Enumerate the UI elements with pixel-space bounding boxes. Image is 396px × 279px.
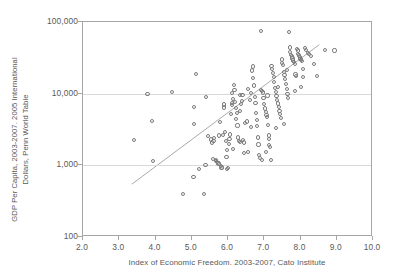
x-tick-label: 7.0 [257, 242, 269, 252]
data-point [256, 142, 260, 146]
plot-area [82, 21, 372, 236]
x-tick-mark [155, 236, 156, 240]
data-point [223, 130, 227, 134]
data-point [218, 120, 222, 124]
scatter-chart: GDP Per Capita, 2003-2007. 2005 Internat… [0, 0, 396, 279]
data-point [260, 158, 264, 162]
gridline [83, 94, 371, 95]
data-point [197, 167, 201, 171]
data-point [132, 138, 136, 142]
x-tick-label: 5.0 [185, 242, 197, 252]
y-tick-mark [78, 93, 82, 94]
data-point [272, 75, 276, 79]
x-axis-title: Index of Economic Freedom. 2003-2007, Ca… [82, 258, 372, 267]
data-point [253, 95, 257, 99]
x-tick-label: 9.0 [330, 242, 342, 252]
data-point [150, 119, 154, 123]
data-point [231, 147, 235, 151]
y-tick-label: 100 [40, 231, 78, 241]
data-point [204, 95, 208, 99]
data-point [234, 117, 238, 121]
x-tick-label: 2.0 [76, 242, 88, 252]
y-tick-label: 100,000 [40, 16, 78, 26]
x-tick-mark [372, 236, 373, 240]
data-point [332, 48, 336, 52]
data-point [285, 68, 289, 72]
x-tick-mark [118, 236, 119, 240]
data-point [250, 68, 254, 72]
x-tick-mark [227, 236, 228, 240]
x-tick-mark [336, 236, 337, 240]
data-point [266, 123, 270, 127]
y-tick-mark [78, 21, 82, 22]
data-point [269, 158, 273, 162]
data-point [264, 150, 268, 154]
y-axis-title: GDP Per Capita, 2003-2007. 2005 Internat… [0, 0, 40, 279]
data-point [265, 93, 269, 97]
data-point [253, 101, 257, 105]
data-point [293, 89, 297, 93]
data-point [181, 192, 185, 196]
data-point [151, 159, 155, 163]
y-axis-tick-labels: 1001,00010,000100,000 [40, 0, 78, 279]
data-point [227, 137, 231, 141]
data-point [276, 85, 280, 89]
data-point [252, 83, 256, 87]
data-point [256, 135, 260, 139]
data-point [293, 62, 297, 66]
data-point [224, 155, 228, 159]
y-axis-title-line2: Dollars, Penn World Table [20, 57, 31, 221]
data-point [228, 132, 232, 136]
x-tick-label: 4.0 [149, 242, 161, 252]
x-tick-mark [191, 236, 192, 240]
data-point [251, 64, 255, 68]
data-point [301, 67, 305, 71]
data-point [227, 142, 231, 146]
data-point [192, 122, 196, 126]
data-point [238, 93, 242, 97]
x-tick-label: 8.0 [294, 242, 306, 252]
y-tick-label: 10,000 [40, 88, 78, 98]
x-tick-label: 10.0 [364, 242, 381, 252]
data-point [202, 192, 206, 196]
data-point [287, 30, 291, 34]
y-tick-mark [78, 164, 82, 165]
x-tick-label: 6.0 [221, 242, 233, 252]
data-point [229, 112, 233, 116]
data-point [235, 123, 239, 127]
data-point [279, 116, 283, 120]
data-point [261, 90, 265, 94]
y-axis-title-line1: GDP Per Capita, 2003-2007. 2005 Internat… [9, 57, 20, 221]
x-tick-label: 3.0 [112, 242, 124, 252]
y-tick-label: 1,000 [40, 159, 78, 169]
trend-line [83, 22, 371, 235]
data-point [242, 140, 246, 144]
data-point [232, 83, 236, 87]
data-point [245, 119, 249, 123]
x-axis-tick-labels: 2.03.04.05.06.07.08.09.010.0 [0, 242, 396, 256]
x-tick-mark [82, 236, 83, 240]
data-point [288, 45, 292, 49]
x-tick-mark [300, 236, 301, 240]
x-tick-mark [263, 236, 264, 240]
